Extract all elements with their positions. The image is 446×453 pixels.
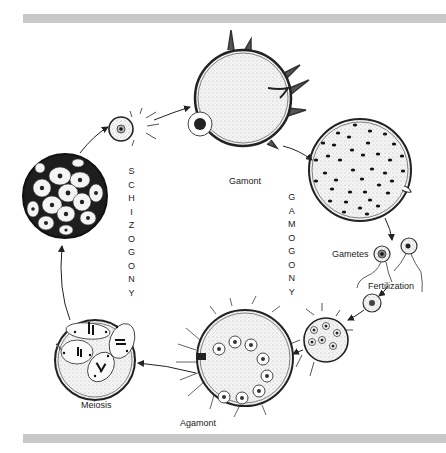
- arrow-schizont-to-juvenile: [80, 127, 108, 153]
- agamont-cell: [176, 296, 293, 417]
- gamogony-letter: O: [288, 232, 295, 246]
- gamogony-letter: Y: [289, 286, 295, 300]
- gamogony-letter: A: [289, 205, 295, 219]
- gamogony-letter: N: [289, 272, 296, 286]
- life-cycle-diagram: [0, 0, 446, 453]
- gamogony-letter: O: [288, 259, 295, 273]
- multinucleate-gamont-cell: [309, 119, 411, 221]
- schizogony-letter: Z: [129, 219, 135, 233]
- schizogony-letter: O: [128, 233, 135, 247]
- phase-label-gamogony: G A M O G O N Y: [288, 191, 296, 299]
- gamogony-letter: G: [288, 245, 295, 259]
- label-agamont: Agamont: [180, 418, 216, 428]
- young-agamont-cell: [290, 303, 353, 376]
- schizogony-letter: N: [128, 273, 135, 287]
- arrow-juvenile-to-gamont: [154, 107, 190, 120]
- phase-label-schizogony: S C H I Z O G O N Y: [128, 165, 135, 300]
- arrow-multinucleate-to-gametes: [385, 218, 392, 240]
- schizogony-letter: O: [128, 260, 135, 274]
- arrow-gamont-to-multinucleate: [283, 146, 312, 160]
- schizont-cell: [23, 154, 107, 238]
- schizogony-letter: Y: [129, 287, 135, 301]
- schizogony-letter: C: [128, 179, 135, 193]
- schizogony-letter: I: [130, 206, 133, 220]
- arrow-meiosis-to-schizont: [61, 246, 70, 320]
- schizogony-letter: G: [128, 246, 135, 260]
- arrow-agamont-to-meiosis: [138, 363, 196, 373]
- gamogony-letter: M: [288, 218, 296, 232]
- label-gamont: Gamont: [229, 176, 261, 186]
- meiosis-cell: [55, 320, 139, 400]
- arrow-zygote-to-young-agamont: [348, 310, 364, 320]
- label-gametes: Gametes: [332, 249, 369, 259]
- arrow-young-to-agamont: [293, 350, 303, 354]
- label-meiosis: Meiosis: [81, 400, 112, 410]
- gamont-cell: [188, 30, 309, 148]
- juvenile-gamont-cell: [109, 108, 159, 146]
- schizogony-letter: H: [128, 192, 135, 206]
- label-fertilization: Fertilization: [368, 281, 414, 291]
- schizogony-letter: S: [129, 165, 135, 179]
- gamogony-letter: G: [288, 191, 295, 205]
